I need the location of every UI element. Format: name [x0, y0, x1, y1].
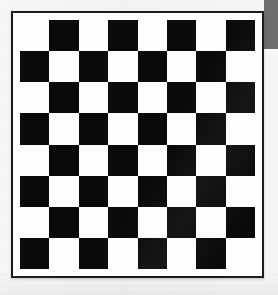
board-square — [138, 238, 167, 269]
board-square — [226, 20, 255, 51]
board-square — [138, 113, 167, 144]
board-square — [138, 82, 167, 113]
chessboard-mat — [13, 13, 262, 276]
board-square — [226, 207, 255, 238]
board-square — [226, 82, 255, 113]
board-square — [20, 238, 49, 269]
board-square — [20, 51, 49, 82]
board-square — [79, 207, 108, 238]
board-square — [49, 145, 78, 176]
board-square — [49, 20, 78, 51]
board-square — [196, 113, 225, 144]
board-square — [108, 51, 137, 82]
board-square — [79, 113, 108, 144]
board-square — [49, 113, 78, 144]
board-square — [108, 238, 137, 269]
board-square — [138, 51, 167, 82]
board-square — [167, 20, 196, 51]
board-square — [196, 82, 225, 113]
board-square — [226, 238, 255, 269]
screenshot-canvas — [0, 0, 278, 295]
board-square — [167, 82, 196, 113]
board-square — [49, 82, 78, 113]
board-square — [108, 145, 137, 176]
board-square — [196, 207, 225, 238]
board-square — [49, 207, 78, 238]
board-square — [49, 176, 78, 207]
board-square — [20, 113, 49, 144]
board-square — [20, 20, 49, 51]
board-square — [226, 145, 255, 176]
board-square — [167, 207, 196, 238]
board-square — [138, 20, 167, 51]
board-square — [226, 113, 255, 144]
board-square — [196, 176, 225, 207]
corner-gray-band — [264, 0, 278, 49]
board-square — [108, 20, 137, 51]
board-square — [138, 207, 167, 238]
board-square — [138, 176, 167, 207]
board-square — [79, 82, 108, 113]
board-square — [79, 145, 108, 176]
board-square — [79, 51, 108, 82]
board-square — [108, 176, 137, 207]
board-square — [167, 238, 196, 269]
board-square — [196, 51, 225, 82]
board-square — [20, 145, 49, 176]
board-square — [20, 82, 49, 113]
board-square — [49, 51, 78, 82]
board-square — [138, 145, 167, 176]
board-square — [226, 51, 255, 82]
board-square — [79, 176, 108, 207]
board-square — [196, 238, 225, 269]
board-square — [20, 207, 49, 238]
chessboard-figure — [11, 11, 264, 278]
board-square — [108, 207, 137, 238]
board-square — [167, 51, 196, 82]
board-square — [196, 145, 225, 176]
board-square — [196, 20, 225, 51]
board-square — [49, 238, 78, 269]
board-square — [167, 113, 196, 144]
board-square — [167, 145, 196, 176]
board-square — [108, 82, 137, 113]
board-square — [108, 113, 137, 144]
board-square — [167, 176, 196, 207]
board-square — [79, 20, 108, 51]
board-square — [226, 176, 255, 207]
board-square — [79, 238, 108, 269]
board-square — [20, 176, 49, 207]
chessboard-grid — [20, 20, 255, 269]
